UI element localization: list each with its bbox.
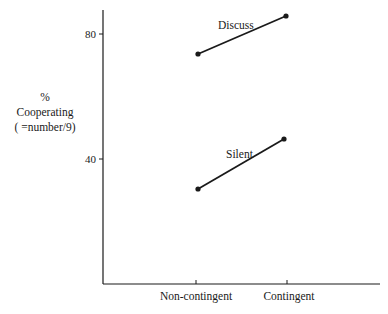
data-point-silent-non-contingent: [195, 186, 200, 191]
chart: 80 40 Non-contingent Contingent % Cooper…: [0, 0, 388, 314]
x-tick-label-non-contingent: Non-contingent: [160, 290, 233, 303]
y-tick-label-80: 80: [85, 28, 97, 40]
y-axis-label-line-3: ( =number/9): [14, 121, 75, 134]
series-label-discuss: Discuss: [218, 19, 254, 31]
data-point-discuss-non-contingent: [195, 51, 200, 56]
data-point-discuss-contingent: [283, 13, 288, 18]
series-label-silent: Silent: [226, 148, 254, 160]
series-line-silent: [198, 139, 284, 189]
y-tick-label-40: 40: [85, 153, 97, 165]
data-point-silent-contingent: [281, 136, 286, 141]
y-axis-label-line-1: %: [40, 91, 50, 103]
y-axis-label-line-2: Cooperating: [17, 106, 74, 119]
x-tick-label-contingent: Contingent: [263, 290, 315, 303]
